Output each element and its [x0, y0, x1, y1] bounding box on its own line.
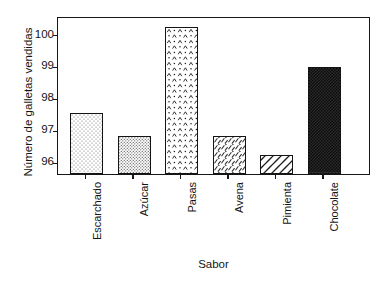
bars-container [58, 18, 369, 174]
x-tick-label: Pasas [186, 182, 198, 213]
y-tick-label: 100 [28, 29, 54, 41]
y-tick-label: 96 [28, 156, 54, 168]
bar [213, 136, 246, 174]
x-tick-mark [227, 175, 228, 179]
x-tick-label: Escarchado [91, 182, 103, 240]
y-tick-label: 97 [28, 124, 54, 136]
x-tick-mark [322, 175, 323, 179]
y-axis-tick-labels: 96 97 98 99 100 [28, 0, 54, 284]
bar [308, 67, 341, 174]
bar [260, 155, 293, 174]
x-tick-mark [85, 175, 86, 179]
x-tick-mark [132, 175, 133, 179]
x-tick-mark [275, 175, 276, 179]
x-tick-label: Pimienta [281, 182, 293, 225]
x-axis-tick-labels: EscarchadoAzúcarPasasAvenaPimientaChocol… [57, 175, 370, 253]
y-tick-label: 99 [28, 60, 54, 72]
bar [165, 27, 198, 174]
x-tick-label: Azúcar [138, 182, 150, 216]
plot-area [57, 17, 370, 175]
x-axis-title: Sabor [57, 258, 370, 270]
x-tick-label: Chocolate [328, 182, 340, 232]
bar-chart: Número de galletas vendidas 96 97 98 99 … [0, 0, 391, 284]
bar [70, 113, 103, 174]
x-tick-mark [180, 175, 181, 179]
bar [118, 136, 151, 174]
y-tick-label: 98 [28, 92, 54, 104]
x-tick-label: Avena [233, 182, 245, 213]
